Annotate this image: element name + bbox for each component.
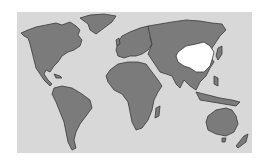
philippines [214,76,218,86]
tasmania [222,138,226,142]
world-map [0,0,266,165]
madagascar [155,106,160,118]
uk [116,38,120,46]
